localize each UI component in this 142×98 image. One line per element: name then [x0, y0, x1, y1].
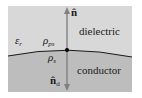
dielectric-conductor-interface-diagram: n̂ dielectric εr ρps ρs conductor n̂d [0, 0, 142, 98]
permittivity-label: εr [15, 35, 22, 48]
surface-charge-label: ρs [48, 52, 56, 65]
polarization-charge-label: ρps [43, 35, 55, 48]
dielectric-label: dielectric [79, 26, 120, 37]
normal-down-label: n̂d [50, 75, 60, 88]
conductor-label: conductor [77, 65, 121, 76]
normal-up-label: n̂ [71, 7, 77, 18]
interface-point [65, 48, 69, 52]
